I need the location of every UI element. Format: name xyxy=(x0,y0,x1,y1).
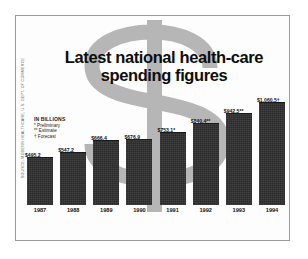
bar-rect xyxy=(60,152,86,205)
source-credit: SOURCE: MODERN HEALTHCARE, U.S. DEPT. OF… xyxy=(21,54,25,182)
bar-1987: $495.2 xyxy=(27,98,53,205)
x-axis-year-labels: 19871988198919901991199219931994 xyxy=(27,207,285,219)
bar-value-label: $1,060.5† xyxy=(257,97,289,103)
bar-1990: $676.9 xyxy=(126,98,152,205)
bar-value-label: $666.4 xyxy=(91,135,123,141)
bar-rect xyxy=(193,123,219,205)
bar-1989: $666.4 xyxy=(93,98,119,205)
bar-value-label: $753.1* xyxy=(158,127,190,133)
year-label-1987: 1987 xyxy=(27,207,53,213)
bar-rect xyxy=(27,157,53,205)
year-label-1989: 1989 xyxy=(93,207,119,213)
page-title: Latest national health-care spending fig… xyxy=(40,48,288,84)
chart-figure: SOURCE: MODERN HEALTHCARE, U.S. DEPT. OF… xyxy=(0,0,308,259)
headline-line-2: spending figures xyxy=(40,66,288,84)
bar-1988: $547.2 xyxy=(60,98,86,205)
bar-1992: $840.4** xyxy=(193,98,219,205)
bar-rect xyxy=(226,113,252,205)
bar-rect xyxy=(93,140,119,205)
year-label-1993: 1993 xyxy=(226,207,252,213)
bar-rect xyxy=(259,102,285,205)
year-label-1990: 1990 xyxy=(126,207,152,213)
bar-rect xyxy=(160,132,186,205)
bar-value-label: $495.2 xyxy=(25,152,57,158)
bar-value-label: $840.4** xyxy=(191,118,223,124)
bar-1994: $1,060.5† xyxy=(259,98,285,205)
year-label-1994: 1994 xyxy=(259,207,285,213)
year-label-1991: 1991 xyxy=(160,207,186,213)
year-label-1992: 1992 xyxy=(193,207,219,213)
bar-1993: $942.5** xyxy=(226,98,252,205)
bar-value-label: $942.5** xyxy=(224,108,256,114)
headline-line-1: Latest national health-care xyxy=(40,48,288,66)
bar-value-label: $676.9 xyxy=(124,134,156,140)
year-label-1988: 1988 xyxy=(60,207,86,213)
bar-value-label: $547.2 xyxy=(58,147,90,153)
bar-plot-area: $495.2$547.2$666.4$676.9$753.1*$840.4**$… xyxy=(27,98,285,205)
bar-rect xyxy=(126,139,152,205)
bar-1991: $753.1* xyxy=(160,98,186,205)
